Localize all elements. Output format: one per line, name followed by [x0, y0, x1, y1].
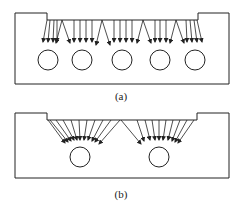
diagram — [0, 0, 243, 212]
panel-a-arrows — [43, 20, 202, 45]
panel-a-circle-3 — [112, 50, 132, 70]
panel-b-circle-2 — [149, 147, 169, 167]
panel-a-circle-2 — [72, 50, 92, 70]
panel-a-outline — [15, 13, 229, 84]
panel-b — [15, 113, 229, 178]
panel-a-circle-1 — [38, 50, 58, 70]
panel-a-circle-5 — [185, 50, 205, 70]
panel-b-arrows — [48, 120, 194, 144]
panel-a-circle-4 — [150, 50, 170, 70]
panel-b-outline — [15, 113, 229, 178]
panel-b-caption: (b) — [115, 188, 128, 200]
panel-a-caption: (a) — [115, 90, 127, 102]
panel-a — [15, 13, 229, 84]
panel-b-circle-1 — [70, 147, 90, 167]
